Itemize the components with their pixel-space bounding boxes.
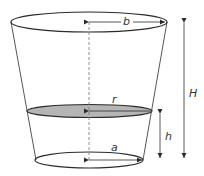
label-h: h xyxy=(165,130,172,143)
label-a: a xyxy=(111,141,118,154)
right-wall xyxy=(143,22,167,160)
label-H: H xyxy=(189,87,197,100)
label-b: b xyxy=(123,15,130,28)
frustum-diagram: b r a h H xyxy=(0,0,204,176)
left-wall xyxy=(11,22,36,160)
label-r: r xyxy=(112,93,118,106)
